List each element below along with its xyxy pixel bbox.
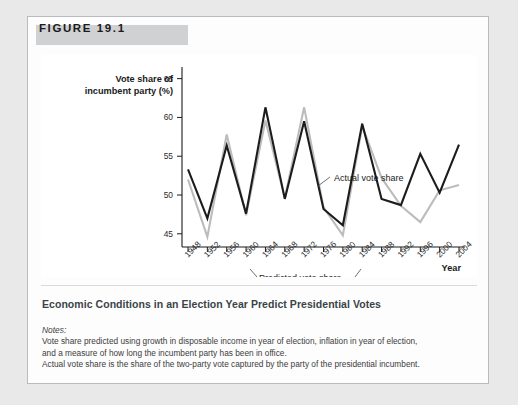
figure-card: FIGURE 19.1 4550556065 19481952195619601…: [27, 16, 489, 384]
x-tick-label: 1952: [202, 239, 222, 259]
series-line-predicted-vote-share: [188, 107, 459, 237]
predicted-leader-line-right: [355, 269, 361, 277]
x-tick-label: 2004: [453, 239, 473, 259]
x-tick-label: 1960: [240, 239, 260, 259]
annotation-predicted-vote-share: Predicted vote share: [259, 273, 342, 277]
y-tick-label: 60: [164, 112, 174, 122]
notes-heading: Notes:: [42, 325, 478, 336]
annotation-actual-vote-share: Actual vote share: [334, 173, 404, 183]
x-tick-label: 1980: [337, 239, 357, 259]
figure-notes: Notes: Vote share predicted using growth…: [42, 325, 478, 371]
note-line: Vote share predicted using growth in dis…: [42, 336, 478, 347]
x-tick-label: 1956: [221, 239, 241, 259]
x-tick-label: 1976: [318, 239, 338, 259]
chart-axes: 4550556065 19481952195619601964196819721…: [164, 67, 474, 259]
x-axis-title: Year: [442, 263, 462, 273]
note-line: and a measure of how long the incumbent …: [42, 348, 478, 359]
x-tick-label: 1948: [182, 239, 202, 259]
predicted-leader-line-left: [250, 269, 257, 277]
x-tick-label: 2000: [434, 239, 454, 259]
y-axis-ticks: 4550556065: [164, 74, 182, 239]
actual-leader-line: [318, 177, 330, 186]
y-tick-label: 55: [164, 151, 174, 161]
figure-caption: Economic Conditions in an Election Year …: [42, 298, 474, 310]
y-tick-label: 50: [164, 190, 174, 200]
x-tick-label: 1992: [395, 239, 415, 259]
x-tick-label: 1972: [298, 239, 318, 259]
chart-annotations: Actual vote share Predicted vote share: [250, 173, 404, 277]
series-line-actual-vote-share: [188, 107, 459, 225]
note-line: Actual vote share is the share of the tw…: [42, 359, 478, 370]
x-tick-label: 1996: [415, 239, 435, 259]
y-axis-title-line2: incumbent party (%): [85, 86, 173, 96]
figure-number-label: FIGURE 19.1: [39, 22, 126, 34]
x-axis-ticks: 1948195219561960196419681972197619801984…: [182, 239, 473, 259]
x-tick-label: 1984: [357, 239, 377, 259]
plot-area-card: 4550556065 19481952195619601964196819721…: [41, 55, 477, 277]
chart-series-group: [188, 107, 459, 237]
y-tick-label: 45: [164, 229, 174, 239]
x-tick-label: 1988: [376, 239, 396, 259]
x-tick-label: 1968: [279, 239, 299, 259]
vote-share-line-chart: 4550556065 19481952195619601964196819721…: [41, 55, 477, 277]
caption-divider: [41, 285, 477, 286]
x-tick-label: 1964: [260, 239, 280, 259]
y-axis-title-line1: Vote share of: [115, 74, 173, 84]
